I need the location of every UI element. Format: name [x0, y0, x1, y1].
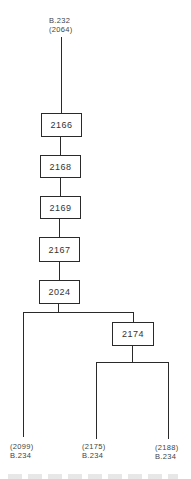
- edge-root-2166: [61, 37, 62, 114]
- node-2168: 2168: [40, 155, 81, 178]
- root-label-line2: (2064): [49, 25, 72, 34]
- edge-2169-2167: [59, 218, 60, 238]
- node-2169: 2169: [40, 196, 81, 219]
- edge-2167-2024: [59, 261, 60, 281]
- node-label: 2174: [122, 329, 144, 339]
- edge-2174-2188: [168, 362, 169, 439]
- edge-2024-2099: [23, 312, 24, 437]
- node-label: 2024: [48, 287, 70, 297]
- node-label: 2169: [49, 203, 71, 213]
- edge-2174-branch: [132, 345, 133, 363]
- clipped-caption: [8, 474, 178, 479]
- node-2167: 2167: [39, 237, 80, 262]
- node-2166: 2166: [41, 113, 82, 137]
- branch-2024: [23, 312, 134, 313]
- node-2174: 2174: [112, 322, 154, 346]
- leaf-label-2175: (2175) B.234: [82, 442, 105, 460]
- edge-2166-2168: [60, 136, 61, 156]
- node-label: 2167: [48, 245, 70, 255]
- leaf-label-2188: (2188) B.234: [155, 443, 178, 461]
- node-label: 2166: [50, 120, 72, 130]
- edge-2174-2175: [96, 362, 97, 439]
- root-label-line1: B.232: [49, 16, 72, 25]
- edge-2168-2169: [60, 177, 61, 197]
- branch-2174: [96, 362, 169, 363]
- node-2024: 2024: [39, 280, 80, 304]
- node-label: 2168: [49, 162, 71, 172]
- root-label: B.232 (2064): [49, 16, 72, 34]
- leaf-label-2099: (2099) B.234: [10, 442, 33, 460]
